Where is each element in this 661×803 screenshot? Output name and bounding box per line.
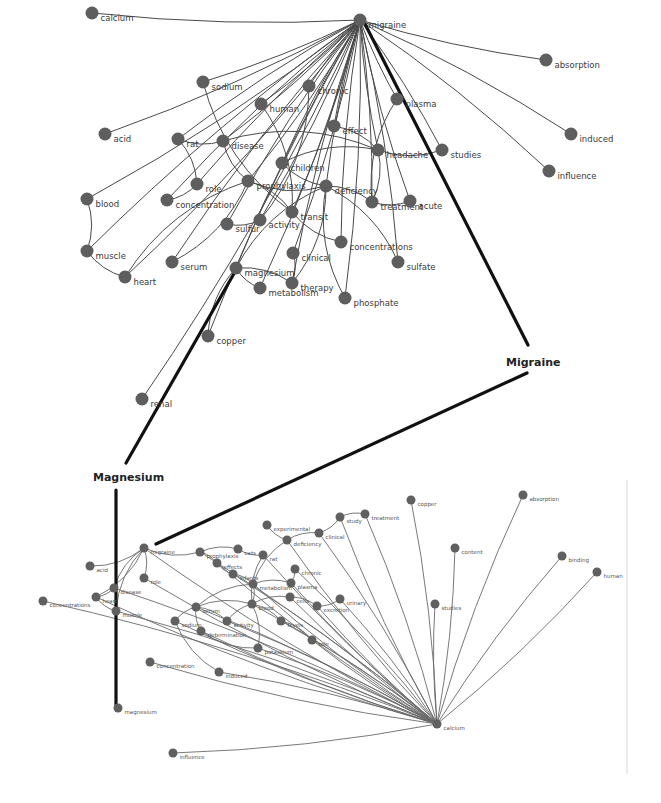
top-node-acid[interactable]: acid [99,128,132,144]
bottom-node-urinary[interactable]: urinary [336,595,367,607]
node-dot-icon[interactable] [335,236,348,249]
node-dot-icon[interactable] [263,521,272,530]
node-dot-icon[interactable] [407,496,416,505]
node-dot-icon[interactable] [172,133,185,146]
node-dot-icon[interactable] [287,247,300,260]
node-dot-icon[interactable] [242,175,255,188]
node-dot-icon[interactable] [286,593,295,602]
node-dot-icon[interactable] [197,76,210,89]
bottom-node-calcium[interactable]: calcium [433,720,465,731]
node-dot-icon[interactable] [361,510,370,519]
node-dot-icon[interactable] [92,593,101,602]
node-dot-icon[interactable] [593,568,602,577]
top-node-deficiency[interactable]: deficiency [320,180,378,196]
node-dot-icon[interactable] [336,595,345,604]
node-dot-icon[interactable] [276,157,289,170]
bottom-node-blood[interactable]: blood [248,600,274,611]
node-dot-icon[interactable] [114,704,123,713]
node-dot-icon[interactable] [254,282,267,295]
node-dot-icon[interactable] [99,128,112,141]
node-dot-icon[interactable] [543,165,556,178]
node-dot-icon[interactable] [308,636,317,645]
node-dot-icon[interactable] [221,218,234,231]
top-node-plasma[interactable]: plasma [391,93,437,109]
node-dot-icon[interactable] [110,584,119,593]
bottom-node-disease[interactable]: disease [110,584,143,595]
bottom-node-concentration[interactable]: concentration [146,658,196,669]
node-dot-icon[interactable] [286,277,299,290]
node-dot-icon[interactable] [565,128,578,141]
bottom-node-sodium[interactable]: sodium [171,617,202,628]
top-node-heart[interactable]: heart [119,271,157,287]
node-dot-icon[interactable] [366,196,379,209]
bottom-node-deficiency[interactable]: deficiency [283,536,323,548]
node-dot-icon[interactable] [320,180,333,193]
top-node-concentrations[interactable]: concentrations [335,236,414,252]
bottom-node-determination[interactable]: determination [197,627,247,638]
top-node-sulfate[interactable]: sulfate [392,256,436,272]
top-node-sodium[interactable]: sodium [197,76,243,92]
bottom-node-migraine[interactable]: migraine [140,544,176,556]
node-dot-icon[interactable] [372,144,385,157]
bottom-node-activity[interactable]: activity [223,617,255,629]
bottom-node-acid[interactable]: acid [86,562,108,573]
node-dot-icon[interactable] [215,668,224,677]
node-dot-icon[interactable] [404,195,417,208]
top-node-blood[interactable]: blood [81,193,120,209]
node-dot-icon[interactable] [315,529,324,538]
node-dot-icon[interactable] [313,602,322,611]
node-dot-icon[interactable] [169,749,178,758]
node-dot-icon[interactable] [255,98,268,111]
node-dot-icon[interactable] [392,256,405,269]
top-node-rat[interactable]: rat [172,133,200,149]
top-node-copper[interactable]: copper [202,330,247,346]
node-dot-icon[interactable] [336,513,345,522]
top-node-prophylaxis[interactable]: prophylaxis [242,175,307,191]
bottom-node-treatment[interactable]: treatment [361,510,400,521]
node-dot-icon[interactable] [140,574,149,583]
top-node-clinical[interactable]: clinical [287,247,331,263]
top-node-studies[interactable]: studies [436,144,482,160]
node-dot-icon[interactable] [431,600,440,609]
node-dot-icon[interactable] [213,559,222,568]
top-node-induced[interactable]: induced [565,128,614,144]
node-dot-icon[interactable] [254,214,267,227]
node-dot-icon[interactable] [519,491,528,500]
bottom-node-role[interactable]: role [140,574,162,585]
bottom-node-levels[interactable]: levels [277,617,304,628]
node-dot-icon[interactable] [248,600,257,609]
node-dot-icon[interactable] [291,565,300,574]
node-dot-icon[interactable] [166,256,179,269]
bottom-node-copper[interactable]: copper [407,496,438,508]
node-dot-icon[interactable] [234,545,243,554]
node-dot-icon[interactable] [540,54,553,67]
node-dot-icon[interactable] [229,570,238,579]
top-node-muscle[interactable]: muscle [81,245,126,261]
node-dot-icon[interactable] [196,548,205,557]
bottom-node-role2[interactable]: role [308,636,330,647]
node-dot-icon[interactable] [81,245,94,258]
bottom-node-induced[interactable]: induced [215,668,248,679]
bottom-node-influence[interactable]: influence [169,749,206,760]
node-dot-icon[interactable] [202,330,215,343]
node-dot-icon[interactable] [39,597,48,606]
bottom-node-human[interactable]: human [593,568,624,579]
node-dot-icon[interactable] [140,544,149,553]
bottom-node-effects[interactable]: effects [213,559,243,570]
node-dot-icon[interactable] [112,607,121,616]
bottom-node-prophylaxis[interactable]: prophylaxis [196,548,239,560]
node-dot-icon[interactable] [433,720,442,729]
bottom-node-cells[interactable]: cells [286,593,309,604]
node-dot-icon[interactable] [283,536,292,545]
node-dot-icon[interactable] [230,262,243,275]
node-dot-icon[interactable] [254,644,263,653]
node-dot-icon[interactable] [558,552,567,561]
node-dot-icon[interactable] [249,580,258,589]
bottom-node-experimental[interactable]: experimental [263,521,311,533]
node-dot-icon[interactable] [277,617,286,626]
node-dot-icon[interactable] [86,7,99,20]
node-dot-icon[interactable] [119,271,132,284]
top-node-phosphate[interactable]: phosphate [339,292,399,308]
node-dot-icon[interactable] [259,551,268,560]
bottom-node-content[interactable]: content [451,544,484,555]
